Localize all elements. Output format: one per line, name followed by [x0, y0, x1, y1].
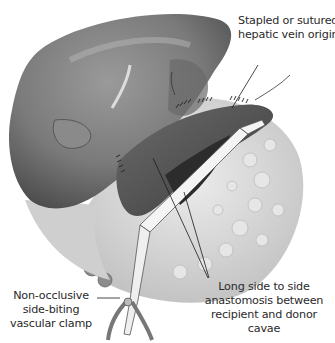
annotation-line: hepatic vein origins — [238, 28, 334, 42]
annotation-line: anastomosis between — [193, 294, 335, 308]
annotation-line: side-biting — [10, 303, 92, 317]
annotation-line: Long side to side — [193, 280, 335, 294]
annotation-line: cavae — [193, 322, 335, 336]
annotation-line: recipient and donor — [193, 308, 335, 322]
annotation-side-to-side-anastomosis: Long side to side anastomosis between re… — [193, 280, 335, 336]
annotation-vascular-clamp: Non-occlusive side-biting vascular clamp — [10, 289, 92, 331]
surgical-figure: Stapled or sutured hepatic vein origins … — [0, 0, 335, 343]
annotation-line: vascular clamp — [10, 317, 92, 331]
annotation-hepatic-vein-origins: Stapled or sutured hepatic vein origins — [238, 14, 334, 42]
annotation-line: Stapled or sutured — [238, 14, 334, 28]
annotation-line: Non-occlusive — [10, 289, 92, 303]
